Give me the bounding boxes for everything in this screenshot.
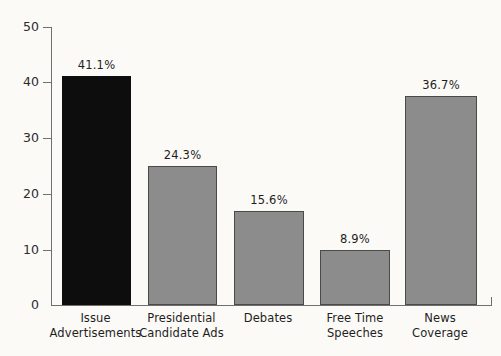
y-tick-label-40: 40 (0, 76, 39, 89)
x-category-line-2: Candidate Ads (122, 326, 241, 341)
bar-value-label: 24.3% (164, 150, 202, 162)
bar-rect (234, 211, 304, 305)
bar-value-label: 15.6% (250, 195, 288, 207)
bar-news-coverage: 36.7% (405, 27, 477, 305)
bar-value-label: 41.1% (78, 60, 116, 72)
bar-rect (148, 166, 217, 305)
bar-debates: 15.6% (234, 27, 304, 305)
bar-issue-advertisements: 41.1% (62, 27, 131, 305)
y-tick-label-0: 0 (0, 299, 39, 312)
plot-area: 41.1% 24.3% 15.6% 8.9% 36.7% (51, 27, 492, 305)
y-tick-label-30: 30 (0, 132, 39, 145)
bar-rect (405, 96, 477, 305)
x-category-label-news-coverage: News Coverage (384, 311, 496, 341)
x-axis-line (51, 305, 492, 306)
y-tick-label-50: 50 (0, 21, 39, 34)
y-tick-label-20: 20 (0, 188, 39, 201)
bar-presidential-candidate-ads: 24.3% (148, 27, 217, 305)
bar-rect (320, 250, 390, 305)
bar-value-label: 36.7% (422, 80, 460, 92)
bar-free-time-speeches: 8.9% (320, 27, 390, 305)
bar-chart: 50 40 30 20 10 0 41.1% 24.3% 15.6% 8.9% … (0, 0, 501, 356)
bar-value-label: 8.9% (340, 234, 370, 246)
x-category-line-2: Coverage (384, 326, 496, 341)
bar-rect (62, 76, 131, 305)
y-tick-label-10: 10 (0, 244, 39, 257)
x-category-line-1: News (384, 311, 496, 326)
